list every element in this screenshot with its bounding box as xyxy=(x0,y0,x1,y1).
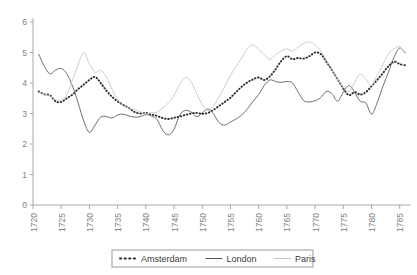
x-tick-label: 1780 xyxy=(367,213,377,232)
x-tick-label: 1785 xyxy=(395,213,405,232)
x-tick-label: 1770 xyxy=(311,213,321,232)
x-tick-label: 1775 xyxy=(339,213,349,232)
x-tick-label: 1755 xyxy=(226,213,236,232)
x-tick-label: 1735 xyxy=(113,213,123,232)
x-axis-group: 1720172517301735174017451750175517601765… xyxy=(29,205,412,232)
y-tick-label: 3 xyxy=(22,109,27,119)
x-tick-label: 1760 xyxy=(254,213,264,232)
x-tick-label: 1740 xyxy=(141,213,151,232)
x-tick-label: 1720 xyxy=(29,213,39,232)
y-axis-group: 0123456 xyxy=(22,17,33,210)
line-chart: 0123456 17201725173017351740174517501755… xyxy=(0,0,417,275)
y-tick-label: 6 xyxy=(22,17,27,27)
y-tick-label: 5 xyxy=(22,48,27,58)
y-tick-label: 2 xyxy=(22,139,27,149)
chart-container: 0123456 17201725173017351740174517501755… xyxy=(0,0,417,275)
x-tick-label: 1730 xyxy=(85,213,95,232)
legend-label-amsterdam: Amsterdam xyxy=(141,254,187,264)
data-series-group xyxy=(39,42,406,135)
legend-label-london: London xyxy=(226,254,256,264)
x-tick-label: 1750 xyxy=(198,213,208,232)
y-tick-label: 4 xyxy=(22,78,27,88)
x-tick-label: 1765 xyxy=(282,213,292,232)
x-tick-label: 1745 xyxy=(170,213,180,232)
x-axis-tick-labels: 1720172517301735174017451750175517601765… xyxy=(29,213,406,232)
y-tick-label: 1 xyxy=(22,170,27,180)
y-tick-label: 0 xyxy=(22,200,27,210)
legend-label-paris: Paris xyxy=(295,254,316,264)
x-tick-label: 1725 xyxy=(57,213,67,232)
chart-legend: AmsterdamLondonParis xyxy=(112,250,316,267)
y-axis-tick-labels: 0123456 xyxy=(22,17,27,210)
x-axis-ticks xyxy=(33,205,400,209)
